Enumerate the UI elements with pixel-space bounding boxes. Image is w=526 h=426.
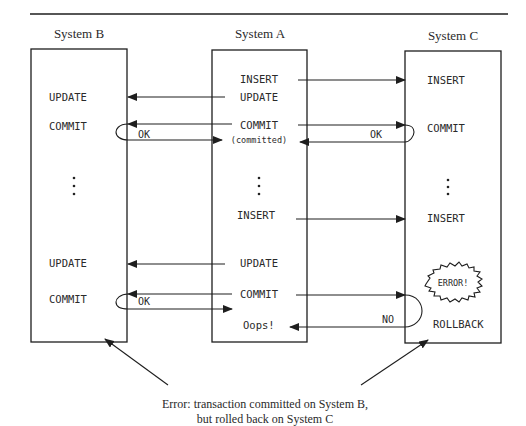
system-b-title: System B — [54, 26, 105, 41]
system-b-ellipsis — [73, 177, 76, 196]
system-a-commit-1: COMMIT — [240, 119, 279, 131]
c-ok-label-1: OK — [370, 129, 382, 140]
b-ok-label-1: OK — [138, 129, 150, 140]
c-ok-reply-1 — [300, 125, 414, 142]
system-c-rollback: ROLLBACK — [433, 318, 484, 330]
system-b-update-1: UPDATE — [49, 91, 87, 103]
caption-line-2: but rolled back on System C — [197, 412, 333, 426]
system-c-insert-2: INSERT — [427, 212, 466, 224]
system-a-committed-note: (committed) — [231, 135, 287, 145]
system-a-update-2: UPDATE — [240, 257, 278, 269]
system-b-update-2: UPDATE — [49, 257, 87, 269]
c-no-label: NO — [382, 314, 394, 325]
system-a-oops: Oops! — [243, 319, 275, 331]
b-ok-reply-1 — [116, 124, 222, 140]
annotation-arrow-to-c — [361, 340, 428, 385]
system-a-insert-2: INSERT — [237, 209, 276, 221]
system-a-update-1: UPDATE — [240, 91, 278, 103]
system-c-commit-1: COMMIT — [427, 122, 466, 134]
system-c-ellipsis — [447, 179, 450, 196]
system-a-title: System A — [235, 26, 286, 41]
system-c-error-label: ERROR! — [438, 278, 469, 288]
system-c-insert-1: INSERT — [427, 74, 466, 86]
two-phase-commit-error-diagram: System B System A System C UPDATE COMMIT… — [0, 0, 526, 426]
system-b-commit-1: COMMIT — [49, 120, 88, 132]
c-no-reply — [290, 295, 422, 327]
annotation-arrow-to-b — [105, 339, 168, 385]
b-ok-reply-2 — [116, 294, 232, 309]
system-c-title: System C — [428, 28, 478, 43]
system-b-commit-2: COMMIT — [49, 293, 88, 305]
system-c-box — [405, 51, 501, 343]
system-a-ellipsis — [258, 177, 261, 196]
system-a-commit-2: COMMIT — [240, 288, 279, 300]
b-ok-label-2: OK — [138, 296, 150, 307]
system-a-insert-1: INSERT — [240, 73, 279, 85]
caption-line-1: Error: transaction committed on System B… — [162, 397, 368, 411]
